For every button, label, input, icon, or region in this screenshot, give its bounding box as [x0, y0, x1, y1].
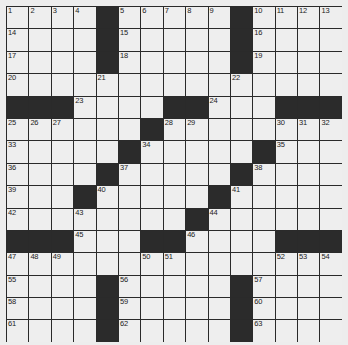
grid-cell[interactable]	[96, 208, 118, 230]
grid-cell[interactable]: 44	[208, 208, 230, 230]
grid-cell[interactable]	[140, 319, 162, 341]
grid-cell[interactable]	[297, 51, 319, 73]
grid-cell[interactable]	[275, 28, 297, 50]
grid-cell[interactable]	[28, 163, 50, 185]
grid-cell[interactable]	[185, 140, 207, 162]
grid-cell[interactable]	[163, 163, 185, 185]
grid-cell[interactable]	[275, 275, 297, 297]
grid-cell[interactable]: 6	[140, 6, 162, 28]
grid-cell[interactable]	[297, 275, 319, 297]
grid-cell[interactable]	[140, 73, 162, 95]
grid-cell[interactable]: 2	[28, 6, 50, 28]
grid-cell[interactable]	[319, 51, 341, 73]
grid-cell[interactable]	[140, 275, 162, 297]
grid-cell[interactable]: 56	[118, 275, 140, 297]
grid-cell[interactable]	[208, 163, 230, 185]
grid-cell[interactable]	[297, 28, 319, 50]
grid-cell[interactable]: 43	[73, 208, 95, 230]
grid-cell[interactable]: 25	[6, 118, 28, 140]
grid-cell[interactable]	[28, 275, 50, 297]
grid-cell[interactable]	[297, 319, 319, 341]
grid-cell[interactable]	[163, 275, 185, 297]
grid-cell[interactable]: 13	[319, 6, 341, 28]
grid-cell[interactable]	[275, 163, 297, 185]
grid-cell[interactable]	[185, 275, 207, 297]
grid-cell[interactable]	[319, 163, 341, 185]
grid-cell[interactable]: 58	[6, 297, 28, 319]
grid-cell[interactable]: 26	[28, 118, 50, 140]
grid-cell[interactable]: 28	[163, 118, 185, 140]
grid-cell[interactable]	[230, 208, 252, 230]
grid-cell[interactable]	[252, 230, 274, 252]
grid-cell[interactable]	[297, 73, 319, 95]
grid-cell[interactable]	[163, 185, 185, 207]
grid-cell[interactable]: 52	[275, 252, 297, 274]
grid-cell[interactable]	[73, 51, 95, 73]
grid-cell[interactable]: 3	[51, 6, 73, 28]
grid-cell[interactable]	[118, 252, 140, 274]
grid-cell[interactable]	[252, 208, 274, 230]
grid-cell[interactable]	[297, 185, 319, 207]
grid-cell[interactable]	[96, 96, 118, 118]
grid-cell[interactable]: 45	[73, 230, 95, 252]
grid-cell[interactable]	[230, 118, 252, 140]
grid-cell[interactable]	[185, 185, 207, 207]
grid-cell[interactable]	[208, 319, 230, 341]
grid-cell[interactable]: 34	[140, 140, 162, 162]
grid-cell[interactable]: 40	[96, 185, 118, 207]
grid-cell[interactable]: 30	[275, 118, 297, 140]
grid-cell[interactable]: 48	[28, 252, 50, 274]
grid-cell[interactable]	[208, 73, 230, 95]
grid-cell[interactable]: 36	[6, 163, 28, 185]
grid-cell[interactable]	[208, 51, 230, 73]
grid-cell[interactable]	[140, 28, 162, 50]
grid-cell[interactable]: 42	[6, 208, 28, 230]
grid-cell[interactable]	[208, 252, 230, 274]
grid-cell[interactable]: 8	[185, 6, 207, 28]
grid-cell[interactable]	[319, 73, 341, 95]
grid-cell[interactable]	[252, 185, 274, 207]
grid-cell[interactable]	[118, 96, 140, 118]
grid-cell[interactable]	[252, 252, 274, 274]
grid-cell[interactable]	[163, 140, 185, 162]
grid-cell[interactable]	[96, 252, 118, 274]
grid-cell[interactable]	[51, 275, 73, 297]
grid-cell[interactable]	[73, 163, 95, 185]
grid-cell[interactable]	[185, 51, 207, 73]
grid-cell[interactable]: 17	[6, 51, 28, 73]
grid-cell[interactable]: 35	[275, 140, 297, 162]
grid-cell[interactable]: 54	[319, 252, 341, 274]
grid-cell[interactable]: 50	[140, 252, 162, 274]
grid-cell[interactable]: 29	[185, 118, 207, 140]
grid-cell[interactable]	[208, 28, 230, 50]
grid-cell[interactable]	[140, 96, 162, 118]
grid-cell[interactable]	[275, 185, 297, 207]
grid-cell[interactable]	[51, 208, 73, 230]
grid-cell[interactable]: 59	[118, 297, 140, 319]
grid-cell[interactable]: 53	[297, 252, 319, 274]
grid-cell[interactable]: 24	[208, 96, 230, 118]
grid-cell[interactable]: 51	[163, 252, 185, 274]
grid-cell[interactable]: 18	[118, 51, 140, 73]
grid-cell[interactable]	[163, 208, 185, 230]
grid-cell[interactable]: 22	[230, 73, 252, 95]
grid-cell[interactable]	[208, 275, 230, 297]
grid-cell[interactable]	[230, 230, 252, 252]
grid-cell[interactable]	[275, 319, 297, 341]
grid-cell[interactable]	[51, 28, 73, 50]
grid-cell[interactable]	[163, 73, 185, 95]
grid-cell[interactable]	[51, 185, 73, 207]
grid-cell[interactable]	[73, 73, 95, 95]
grid-cell[interactable]	[208, 118, 230, 140]
grid-cell[interactable]: 19	[252, 51, 274, 73]
grid-cell[interactable]	[297, 140, 319, 162]
grid-cell[interactable]	[319, 297, 341, 319]
grid-cell[interactable]	[319, 185, 341, 207]
grid-cell[interactable]	[73, 28, 95, 50]
grid-cell[interactable]	[28, 28, 50, 50]
grid-cell[interactable]	[73, 252, 95, 274]
grid-cell[interactable]: 41	[230, 185, 252, 207]
grid-cell[interactable]: 57	[252, 275, 274, 297]
grid-cell[interactable]	[96, 140, 118, 162]
grid-cell[interactable]	[51, 73, 73, 95]
